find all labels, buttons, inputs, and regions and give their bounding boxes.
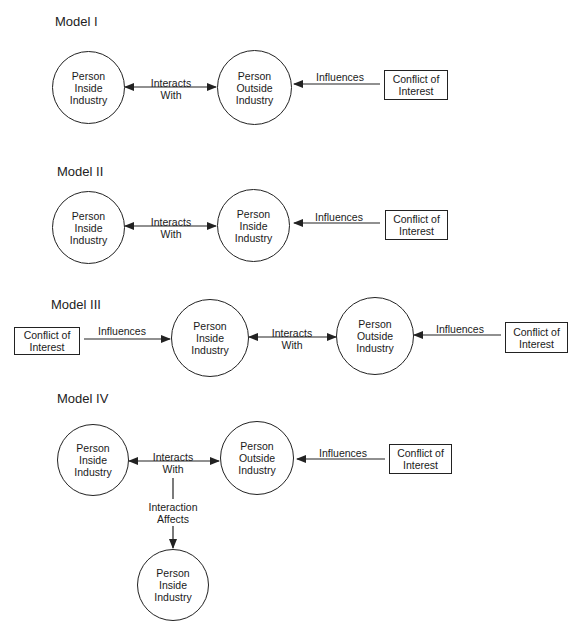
box-line: Conflict of [24, 329, 71, 341]
m3-person-outside-node: PersonOutsideIndustry [336, 297, 414, 375]
node-line: Person [238, 440, 275, 452]
node-line: Inside [70, 222, 107, 234]
node-line: Inside [70, 82, 107, 94]
node-line: Industry [70, 234, 107, 246]
node-line: Industry [236, 94, 273, 106]
node-line: Person [191, 320, 228, 332]
label-line: Interacts [150, 216, 192, 228]
model-1-title: Model I [55, 14, 98, 29]
node-line: Outside [238, 452, 275, 464]
node-line: Person [236, 70, 273, 82]
box-line: Conflict of [397, 447, 444, 459]
box-line: Conflict of [393, 213, 440, 225]
m4-conflict-box: Conflict ofInterest [389, 444, 452, 474]
m3-person-inside-node: PersonInsideIndustry [171, 299, 249, 377]
label-line: Interacts [152, 451, 194, 463]
m1-person-outside-node: PersonOutsideIndustry [217, 50, 292, 125]
label-line: Interaction [146, 501, 200, 513]
box-line: Interest [513, 338, 560, 350]
m3-influence-label: Influences [434, 323, 486, 335]
m1-interaction-label: InteractsWith [150, 77, 192, 101]
model-4-title: Model IV [57, 391, 108, 406]
m1-person-inside-node: PersonInsideIndustry [52, 51, 125, 124]
box-line: Conflict of [393, 73, 440, 85]
node-line: Person [154, 567, 191, 579]
node-line: Industry [70, 94, 107, 106]
m4-person-inside-bottom-node: PersonInsideIndustry [137, 549, 209, 621]
node-line: Person [70, 210, 107, 222]
node-line: Inside [154, 579, 191, 591]
node-line: Industry [235, 232, 272, 244]
label-line: Interacts [271, 327, 313, 339]
node-line: Inside [191, 332, 228, 344]
node-line: Inside [235, 220, 272, 232]
label-line: Affects [146, 513, 200, 525]
m3-right-conflict-box: Conflict ofInterest [505, 322, 568, 353]
model-3-title: Model III [51, 297, 101, 312]
box-line: Interest [393, 85, 440, 97]
box-line: Interest [393, 225, 440, 237]
node-line: Industry [74, 466, 111, 478]
node-line: Outside [356, 330, 393, 342]
node-line: Industry [154, 591, 191, 603]
m4-interaction-label: InteractsWith [152, 451, 194, 475]
node-line: Person [235, 208, 272, 220]
m2-person-inside-right-node: PersonInsideIndustry [217, 189, 290, 262]
label-line: Interacts [150, 77, 192, 89]
box-line: Interest [24, 341, 71, 353]
node-line: Industry [238, 464, 275, 476]
m1-conflict-box: Conflict ofInterest [384, 70, 448, 100]
m4-person-inside-node: PersonInsideIndustry [57, 424, 129, 496]
node-line: Person [356, 318, 393, 330]
label-line: With [150, 228, 192, 240]
m4-influence-label: Influences [317, 447, 369, 459]
box-line: Conflict of [513, 326, 560, 338]
node-line: Inside [74, 454, 111, 466]
label-line: With [271, 339, 313, 351]
node-line: Outside [236, 82, 273, 94]
m3-left-influence-label: Influences [96, 325, 148, 337]
node-line: Industry [191, 344, 228, 356]
m2-person-inside-left-node: PersonInsideIndustry [52, 191, 125, 264]
m2-interaction-label: InteractsWith [150, 216, 192, 240]
node-line: Person [70, 70, 107, 82]
label-line: With [150, 89, 192, 101]
node-line: Person [74, 442, 111, 454]
m4-person-outside-node: PersonOutsideIndustry [220, 421, 294, 495]
m3-left-conflict-box: Conflict ofInterest [14, 327, 80, 355]
m4-effect-label: InteractionAffects [146, 501, 200, 525]
model-2-title: Model II [57, 164, 103, 179]
m2-influence-label: Influences [313, 211, 365, 223]
m1-influence-label: Influences [314, 71, 366, 83]
label-line: With [152, 463, 194, 475]
m3-interaction-label: InteractsWith [271, 327, 313, 351]
box-line: Interest [397, 459, 444, 471]
m2-conflict-box: Conflict ofInterest [385, 210, 448, 240]
node-line: Industry [356, 342, 393, 354]
